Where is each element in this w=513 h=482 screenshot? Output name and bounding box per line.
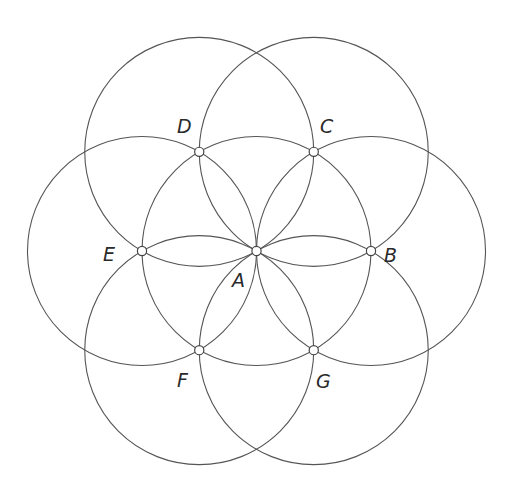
label-B: B (384, 244, 397, 266)
point-A (252, 246, 261, 255)
label-E: E (103, 243, 115, 265)
label-D: D (177, 115, 192, 137)
point-E (137, 246, 146, 255)
label-C: C (320, 115, 334, 137)
label-G: G (316, 370, 331, 392)
label-A: A (230, 269, 245, 291)
points-group (137, 147, 375, 355)
point-C (309, 147, 318, 156)
seed-of-life-diagram: A B C D E F G (0, 0, 513, 482)
point-F (195, 346, 204, 355)
point-D (195, 147, 204, 156)
point-G (309, 346, 318, 355)
label-F: F (177, 369, 189, 391)
point-B (366, 246, 375, 255)
